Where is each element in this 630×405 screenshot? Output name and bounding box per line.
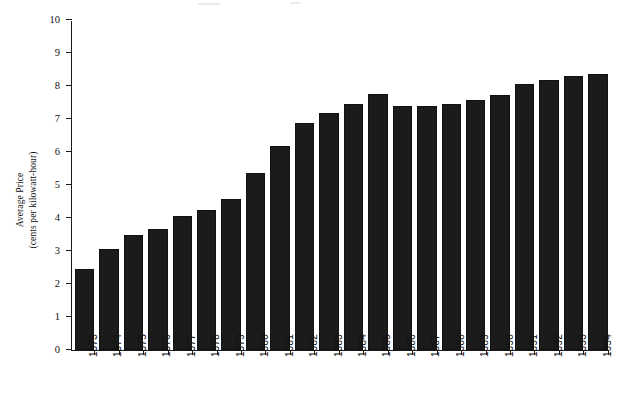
y-axis-tick-label: 10 (50, 15, 61, 26)
bar (588, 74, 607, 350)
plot-area: 012345678910 (71, 21, 609, 351)
y-axis-tick-label: 0 (55, 345, 60, 356)
bar (270, 146, 289, 350)
y-axis-title-line2: (cents per kilowatt-hour) (26, 152, 39, 249)
y-axis-tick-label: 8 (55, 81, 60, 92)
bar (490, 95, 509, 350)
bar (124, 235, 143, 350)
y-axis-tick-label: 1 (55, 312, 60, 323)
y-axis-tick: 10 (66, 19, 72, 20)
bar (148, 229, 167, 350)
bar (442, 104, 461, 351)
bar (564, 76, 583, 350)
bar (393, 106, 412, 350)
y-axis-tick-label: 9 (55, 48, 60, 59)
y-axis-title-line1: Average Price (14, 152, 27, 249)
bar (246, 173, 265, 350)
y-axis-tick-label: 5 (55, 180, 60, 191)
y-axis-tick-label: 2 (55, 279, 60, 290)
bar (368, 94, 387, 350)
bar (221, 199, 240, 350)
scan-artifact (290, 2, 300, 4)
y-axis-tick-label: 7 (55, 114, 60, 125)
y-axis-title: Average Price (cents per kilowatt-hour) (6, 120, 46, 280)
bar (295, 123, 314, 350)
scan-artifact (198, 3, 220, 5)
bar (417, 106, 436, 350)
y-axis-tick-label: 4 (55, 213, 60, 224)
bar (344, 104, 363, 350)
y-axis-tick-label: 6 (55, 147, 60, 158)
x-axis-labels: 1973197419751976197719781979198019811982… (71, 355, 609, 405)
bar-chart-figure: Average Price (cents per kilowatt-hour) … (0, 0, 630, 405)
bar-series (72, 21, 609, 350)
bar (319, 113, 338, 350)
bar (197, 210, 216, 350)
bar (539, 80, 558, 350)
y-axis-tick-label: 3 (55, 246, 60, 257)
bar (466, 100, 485, 350)
bar (173, 216, 192, 350)
bar (515, 84, 534, 350)
